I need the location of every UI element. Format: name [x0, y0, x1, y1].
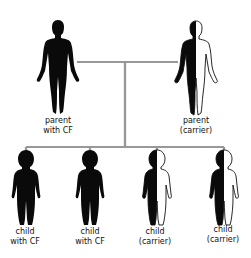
pedigree-diagram: parent with CF parent (carrier) child wi…	[0, 0, 251, 258]
child-3-figure	[141, 149, 173, 226]
child-1-figure	[10, 149, 42, 226]
affected-silhouette-icon	[12, 150, 41, 225]
parent-carrier-figure	[171, 20, 221, 116]
parent-carrier-label: parent (carrier)	[161, 116, 231, 136]
label-line: with CF	[0, 237, 60, 247]
child-2-label: child with CF	[55, 227, 125, 247]
child-4-label: child (carrier)	[188, 225, 251, 245]
affected-silhouette-icon	[76, 150, 105, 225]
label-line: (carrier)	[120, 237, 190, 247]
child-4-figure	[208, 149, 240, 226]
label-line: (carrier)	[188, 235, 251, 245]
parent-with-cf-label: parent with CF	[23, 116, 93, 136]
child-1-label: child with CF	[0, 227, 60, 247]
label-line: child	[120, 227, 190, 237]
label-line: with CF	[23, 126, 93, 136]
label-line: child	[55, 227, 125, 237]
label-line: child	[0, 227, 60, 237]
label-line: parent	[23, 116, 93, 126]
child-2-figure	[74, 149, 106, 226]
label-line: with CF	[55, 237, 125, 247]
child-3-label: child (carrier)	[120, 227, 190, 247]
label-line: child	[188, 225, 251, 235]
parent-with-cf-figure	[33, 19, 83, 115]
label-line: parent	[161, 116, 231, 126]
label-line: (carrier)	[161, 126, 231, 136]
affected-silhouette-icon	[37, 20, 80, 114]
